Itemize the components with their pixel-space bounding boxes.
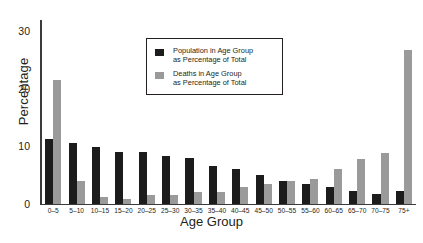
bar-population — [396, 191, 404, 203]
bar-population — [256, 175, 264, 203]
bar-chart: Percentage 0102030 0–55–1010–1515–2020–2… — [0, 0, 423, 243]
bar-population — [372, 194, 380, 204]
bar-deaths — [170, 195, 178, 204]
bar-deaths — [194, 192, 202, 203]
bar-group — [88, 20, 111, 204]
legend-item-population: Population in Age Group as Percentage of… — [155, 46, 253, 65]
bar-group — [345, 20, 368, 204]
bar-population — [45, 139, 53, 204]
y-axis-tick-10: 10 — [4, 141, 30, 151]
bar-deaths — [123, 199, 131, 204]
bar-population — [326, 187, 334, 204]
bar-population — [209, 166, 217, 203]
bar-population — [302, 184, 310, 203]
legend-item-deaths: Deaths in Age Group as Percentage of Tot… — [155, 69, 246, 88]
bar-deaths — [381, 153, 389, 203]
bar-deaths — [147, 195, 155, 204]
legend-label-deaths-line1: Deaths in Age Group — [173, 69, 242, 78]
bar-deaths — [240, 187, 248, 204]
bar-population — [69, 143, 77, 203]
bar-deaths — [404, 50, 412, 203]
bar-deaths — [357, 159, 365, 203]
bar-group — [322, 20, 345, 204]
legend-label-deaths-line2: as Percentage of Total — [173, 78, 246, 87]
bar-population — [232, 169, 240, 203]
bar-deaths — [100, 197, 108, 203]
y-axis-tick-labels: 0102030 — [8, 0, 30, 243]
legend-label-population-line1: Population in Age Group — [173, 46, 253, 55]
x-axis-title: Age Group — [0, 214, 423, 229]
bar-group — [392, 20, 415, 204]
bar-group — [112, 20, 135, 204]
bar-deaths — [77, 181, 85, 204]
x-axis-line — [40, 204, 416, 206]
bar-population — [279, 181, 287, 203]
legend-label-population-line2: as Percentage of Total — [173, 55, 246, 64]
bar-population — [115, 152, 123, 204]
bar-population — [92, 147, 100, 204]
bar-population — [185, 158, 193, 203]
legend-label-population: Population in Age Group as Percentage of… — [173, 46, 253, 65]
bar-population — [139, 152, 147, 204]
bar-group — [65, 20, 88, 204]
chart-legend: Population in Age Group as Percentage of… — [146, 38, 283, 95]
y-axis-tick-0: 0 — [4, 199, 30, 209]
legend-swatch-population-icon — [155, 49, 164, 56]
bar-population — [349, 191, 357, 204]
y-axis-tick-30: 30 — [4, 26, 30, 36]
bar-group — [299, 20, 322, 204]
bar-deaths — [217, 192, 225, 203]
bar-deaths — [53, 80, 61, 203]
bar-group — [369, 20, 392, 204]
bar-population — [162, 156, 170, 204]
bar-deaths — [264, 184, 272, 203]
bar-deaths — [334, 169, 342, 203]
bar-deaths — [287, 181, 295, 203]
bar-group — [42, 20, 65, 204]
bar-deaths — [310, 179, 318, 204]
y-axis-tick-20: 20 — [4, 84, 30, 94]
legend-label-deaths: Deaths in Age Group as Percentage of Tot… — [173, 69, 246, 88]
legend-swatch-deaths-icon — [155, 72, 164, 79]
